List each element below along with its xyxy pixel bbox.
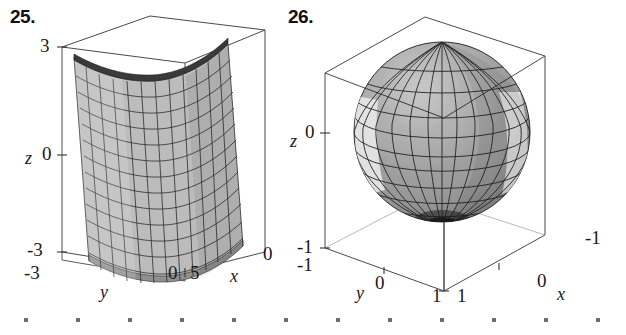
page-dot [76,318,80,322]
exercise-number-26: 26. [288,6,313,28]
fig25-ztick-neg3: -3 [27,239,43,261]
page-dot [284,318,288,322]
page-dot [128,318,132,322]
page-dot [336,318,340,322]
fig26-xaxis-label: x [557,284,565,305]
fig25-xtick-0: 0 [263,243,273,265]
fig26-yaxis-label: y [356,283,364,304]
fig25-zaxis-label: z [25,148,32,169]
fig26-xtick-neg1: -1 [585,227,601,249]
fig26-ytick-0: 0 [375,272,385,294]
figure-26: 26. [313,0,626,335]
fig26-zaxis-label: z [290,131,297,152]
page-dot [492,318,496,322]
fig25-ztick-0: 0 [42,143,52,165]
fig25-ytick-0: 0 [168,262,178,284]
unit-sphere-surface [325,42,545,234]
fig26-ytick-neg1: -1 [297,254,313,276]
page-dot [232,318,236,322]
page-dot [544,318,548,322]
page-dot [440,318,444,322]
fig25-yaxis-label: y [100,282,108,303]
fig25-xaxis-label: x [230,266,238,287]
fig25-ytick-neg3: -3 [24,262,40,284]
fig26-xtick-1: 1 [457,285,467,307]
parabolic-cylinder-surface [74,38,243,283]
figure-25: 25. [0,0,313,335]
fig25-xtick-5: 5 [190,262,200,284]
page-dot [180,318,184,322]
page-dot [388,318,392,322]
fig26-xtick-0: 0 [537,270,547,292]
page-dot-rule [0,313,626,327]
page-dot [24,318,28,322]
fig26-ytick-1: 1 [432,285,442,307]
page-dot [596,318,600,322]
fig26-ztick-0: 0 [305,121,315,143]
fig25-ztick-3: 3 [40,35,50,57]
